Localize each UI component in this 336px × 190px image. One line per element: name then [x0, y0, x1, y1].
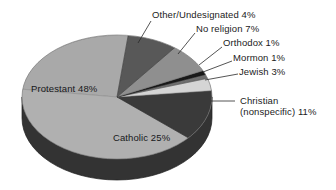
label-jewish: Jewish 3%: [239, 66, 285, 77]
label-christian-line2: (nonspecific) 11%: [240, 106, 317, 117]
leader-line-no-religion: [178, 33, 195, 54]
label-christian-line1: Christian: [240, 95, 278, 106]
leader-line-mormon: [203, 61, 232, 72]
label-protestant: Protestant 48%: [31, 83, 97, 94]
label-christian: Christian (nonspecific) 11%: [240, 95, 332, 117]
leader-line-jewish: [205, 74, 238, 80]
label-mormon: Mormon 1%: [233, 52, 285, 63]
label-no-religion: No religion 7%: [196, 23, 259, 34]
label-orthodox: Orthodox 1%: [223, 37, 280, 48]
label-other-undesignated: Other/Undesignated 4%: [152, 9, 256, 20]
label-catholic: Catholic 25%: [113, 132, 170, 143]
leader-line-orthodox: [199, 47, 222, 65]
pie-chart: Other/Undesignated 4% No religion 7% Ort…: [0, 0, 336, 190]
